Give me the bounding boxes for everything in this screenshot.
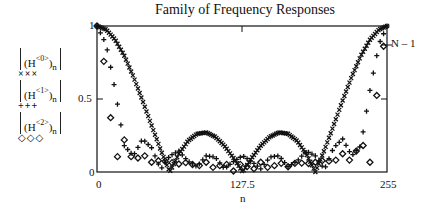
- data-point: [330, 127, 334, 131]
- data-point: [265, 164, 271, 170]
- data-point: [349, 76, 353, 80]
- legend-item-h0: (H<0>)n ×××: [14, 48, 74, 80]
- data-point: [122, 143, 127, 148]
- data-point: [371, 71, 376, 76]
- legend-item-h2: (H<2>)n ◇◇◇: [14, 112, 74, 144]
- data-point: [278, 160, 284, 166]
- series-layer: [94, 23, 390, 174]
- data-point: [131, 73, 135, 77]
- data-point: [138, 91, 142, 95]
- n-minus-1-annotation: N – 1: [391, 37, 415, 49]
- data-point: [337, 108, 341, 112]
- data-point: [356, 60, 360, 64]
- data-point: [133, 78, 137, 82]
- data-point: [148, 119, 152, 123]
- data-point: [374, 92, 380, 98]
- data-point: [344, 90, 348, 94]
- data-point: [271, 163, 277, 169]
- data-point: [333, 143, 338, 148]
- data-point: [275, 153, 280, 158]
- y-tick-0: 0: [89, 166, 95, 178]
- data-point: [367, 159, 373, 165]
- data-point: [153, 133, 157, 137]
- data-point: [378, 39, 383, 44]
- data-point: [149, 145, 154, 150]
- y-tick-0-5: 0.5: [78, 92, 92, 104]
- data-point: [134, 82, 138, 86]
- data-point: [135, 145, 140, 150]
- data-point: [146, 114, 150, 118]
- data-point: [340, 151, 346, 157]
- data-point: [146, 142, 151, 147]
- data-point: [118, 122, 123, 127]
- data-point: [142, 139, 147, 144]
- data-point: [155, 137, 159, 141]
- data-point: [344, 143, 349, 148]
- plus-marker-icon: +++: [18, 101, 38, 111]
- data-point: [153, 153, 158, 158]
- legend: (H<0>)n ××× (H<1>)n +++ (H<2>)n ◇◇◇: [14, 48, 74, 144]
- data-point: [108, 65, 113, 70]
- data-point: [330, 148, 335, 153]
- data-point: [98, 30, 103, 35]
- data-point: [374, 53, 379, 58]
- data-point: [183, 160, 189, 166]
- data-point: [341, 98, 345, 102]
- data-point: [210, 164, 216, 170]
- data-point: [136, 87, 140, 91]
- x-marker-icon: ×××: [18, 69, 38, 79]
- data-point: [361, 129, 366, 134]
- data-point: [353, 68, 357, 72]
- data-point: [367, 88, 372, 93]
- data-point: [332, 122, 336, 126]
- data-point: [351, 72, 355, 76]
- data-point: [342, 94, 346, 98]
- data-point: [381, 43, 387, 49]
- data-point: [160, 151, 164, 155]
- x-tick-0: 0: [96, 178, 102, 190]
- legend-item-h1: (H<1>)n +++: [14, 80, 74, 112]
- data-point: [149, 159, 155, 165]
- data-point: [125, 147, 130, 152]
- data-point: [322, 149, 326, 153]
- legend-expr: (H<1>)n: [20, 80, 61, 102]
- data-point: [158, 146, 162, 150]
- data-point: [325, 140, 329, 144]
- data-point: [339, 103, 343, 107]
- data-point: [336, 113, 340, 117]
- x-tick-127-5: 127.5: [230, 178, 255, 190]
- data-point: [347, 149, 352, 154]
- data-point: [354, 64, 358, 68]
- data-point: [329, 131, 333, 135]
- data-point: [381, 31, 386, 36]
- data-point: [142, 153, 148, 159]
- data-point: [265, 158, 270, 163]
- data-point: [143, 105, 147, 109]
- data-point: [324, 145, 328, 149]
- data-point: [121, 137, 127, 143]
- data-point: [144, 109, 148, 113]
- legend-expr: (H<2>)n: [20, 112, 61, 134]
- data-point: [135, 155, 141, 161]
- data-point: [299, 160, 305, 166]
- data-point: [101, 37, 106, 42]
- data-point: [230, 168, 236, 174]
- data-point: [327, 136, 331, 140]
- legend-expr: (H<0>)n: [20, 48, 61, 70]
- data-point: [156, 142, 160, 146]
- data-point: [340, 137, 345, 142]
- data-point: [323, 164, 328, 169]
- data-point: [155, 158, 161, 164]
- diamond-marker-icon: ◇◇◇: [18, 133, 44, 143]
- data-point: [101, 58, 107, 64]
- data-point: [126, 62, 130, 66]
- data-point: [150, 124, 154, 128]
- data-point: [315, 166, 319, 170]
- data-point: [159, 165, 164, 170]
- data-point: [337, 140, 342, 145]
- data-point: [333, 157, 339, 163]
- data-point: [108, 115, 114, 121]
- data-point: [334, 117, 338, 121]
- data-point: [139, 95, 143, 99]
- data-point: [151, 128, 155, 132]
